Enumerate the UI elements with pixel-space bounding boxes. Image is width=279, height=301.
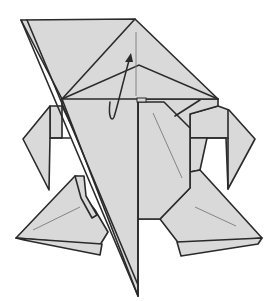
origami-diagram [0,0,279,301]
left-leg [16,176,108,255]
